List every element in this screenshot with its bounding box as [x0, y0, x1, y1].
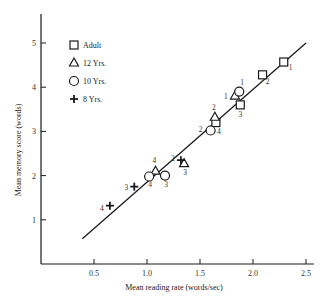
legend: Adult12 Yrs.10 Yrs.8 Yrs. [70, 41, 107, 104]
point-label: 1 [240, 78, 244, 87]
point-label: 2 [199, 125, 203, 134]
x-tick-label: 1.5 [195, 269, 205, 278]
point-label: 4 [100, 204, 104, 213]
legend-label: 12 Yrs. [83, 59, 106, 68]
axes: 0.51.01.52.02.512345 [32, 14, 314, 278]
plus-marker-icon [130, 183, 138, 191]
legend-label: 10 Yrs. [83, 77, 106, 86]
plus-marker-icon [70, 95, 78, 103]
legend-item: 10 Yrs. [70, 77, 107, 87]
legend-label: Adult [83, 41, 102, 50]
point-label: 2 [266, 77, 270, 86]
y-axis-title: Mean memory score (words) [14, 103, 23, 196]
data-points: 123412341234234 [100, 58, 293, 213]
y-tick-label: 3 [32, 127, 36, 136]
square-marker-icon [70, 41, 78, 49]
y-tick-label: 2 [32, 172, 36, 181]
square-marker-icon [236, 101, 244, 109]
legend-item: 8 Yrs. [70, 95, 102, 104]
x-tick-label: 1.0 [142, 269, 152, 278]
point-label: 3 [164, 180, 168, 189]
fit-line [82, 43, 306, 239]
series-12-yrs: 1234 [151, 91, 240, 177]
point-label: 4 [148, 180, 152, 189]
point-label: 2 [171, 154, 175, 163]
x-axis-title: Mean reading rate (words/sec) [125, 283, 223, 292]
plus-marker-icon [106, 202, 114, 210]
legend-label: 8 Yrs. [83, 95, 102, 104]
point-label: 4 [217, 127, 221, 136]
x-tick-label: 0.5 [89, 269, 99, 278]
triangle-marker-icon [70, 58, 79, 66]
x-tick-label: 2.5 [301, 269, 311, 278]
chart-svg: 0.51.01.52.02.512345 123412341234234 Adu… [0, 0, 333, 303]
legend-item: 12 Yrs. [70, 58, 107, 68]
y-tick-label: 1 [32, 216, 36, 225]
y-tick-label: 5 [32, 39, 36, 48]
circle-marker-icon [235, 87, 244, 96]
point-label: 1 [224, 92, 228, 101]
x-tick-label: 2.0 [248, 269, 258, 278]
circle-marker-icon [70, 77, 79, 86]
point-label: 1 [289, 63, 293, 72]
scatter-chart: 0.51.01.52.02.512345 123412341234234 Adu… [0, 0, 333, 303]
circle-marker-icon [206, 126, 215, 135]
point-label: 3 [124, 183, 128, 192]
triangle-marker-icon [210, 112, 219, 120]
legend-item: Adult [70, 41, 102, 50]
point-label: 3 [238, 110, 242, 119]
regression-line [82, 43, 306, 239]
y-tick-label: 4 [32, 83, 36, 92]
square-marker-icon [280, 58, 288, 66]
point-label: 4 [153, 156, 157, 165]
series-8-yrs: 234 [100, 154, 185, 213]
point-label: 2 [212, 103, 216, 112]
point-label: 3 [183, 168, 187, 177]
